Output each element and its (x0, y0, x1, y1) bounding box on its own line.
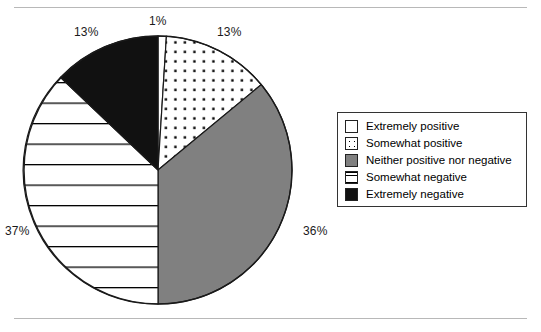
legend-item-extremely-negative: Extremely negative (345, 186, 519, 203)
pie-label-extremely-negative: 13% (74, 25, 99, 39)
legend-item-somewhat-positive: Somewhat positive (345, 135, 519, 152)
pie-chart-figure: 1% 13% 13% 37% 36% Extremely positive So… (0, 0, 541, 332)
legend-label-somewhat-negative: Somewhat negative (366, 171, 467, 184)
legend-label-neither-positive-nor-negative: Neither positive nor negative (366, 154, 512, 167)
legend-label-somewhat-positive: Somewhat positive (366, 137, 463, 150)
legend-swatch-gray-icon (345, 154, 358, 167)
pie-label-somewhat-positive: 13% (217, 25, 242, 39)
legend-swatch-hlines-icon (345, 171, 358, 184)
legend-label-extremely-positive: Extremely positive (366, 120, 459, 133)
legend-swatch-white-icon (345, 120, 358, 133)
legend-swatch-black-icon (345, 188, 358, 201)
bottom-divider-rule (14, 318, 527, 319)
legend-item-somewhat-negative: Somewhat negative (345, 169, 519, 186)
pie-label-somewhat-negative: 37% (5, 224, 30, 238)
legend-item-neither-positive-nor-negative: Neither positive nor negative (345, 152, 519, 169)
chart-legend: Extremely positive Somewhat positive Nei… (337, 112, 527, 207)
pie-label-neither-positive-nor-negative: 36% (303, 224, 328, 238)
legend-label-extremely-negative: Extremely negative (366, 188, 464, 201)
pie-label-extremely-positive: 1% (149, 14, 167, 28)
legend-swatch-dotted-icon (345, 137, 358, 150)
legend-item-extremely-positive: Extremely positive (345, 118, 519, 135)
